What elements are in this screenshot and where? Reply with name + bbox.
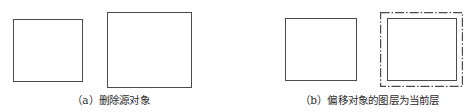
caption-b: （b）偏移对象的图层为当前层 [300, 93, 440, 107]
rectangle-source-b [285, 18, 357, 81]
rectangle-inner-b [387, 18, 457, 81]
figure-b: （b）偏移对象的图层为当前层 [0, 0, 470, 112]
